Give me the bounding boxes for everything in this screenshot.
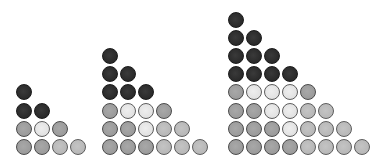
circle-very-light <box>34 121 50 137</box>
circle-staircase-figure <box>0 0 388 168</box>
circle-dark <box>120 84 136 100</box>
circle-dark <box>228 48 244 64</box>
circle-medium-gray <box>264 121 280 137</box>
circle-dark <box>228 66 244 82</box>
circle-medium-gray <box>246 103 262 119</box>
circle-light-gray <box>336 139 352 155</box>
circle-light-gray <box>318 103 334 119</box>
circle-medium-gray <box>102 121 118 137</box>
circle-medium-gray <box>246 139 262 155</box>
circle-medium-gray <box>228 139 244 155</box>
circle-dark <box>228 30 244 46</box>
circle-light-gray <box>300 103 316 119</box>
circle-medium-gray <box>120 139 136 155</box>
circle-dark <box>16 84 32 100</box>
circle-dark <box>102 66 118 82</box>
circle-dark <box>264 48 280 64</box>
circle-medium-gray <box>16 121 32 137</box>
circle-medium-gray <box>120 121 136 137</box>
circle-very-light <box>264 84 280 100</box>
circle-dark <box>264 66 280 82</box>
circle-light-gray <box>52 139 68 155</box>
circle-very-light <box>120 103 136 119</box>
circle-medium-gray <box>228 121 244 137</box>
circle-medium-gray <box>34 139 50 155</box>
circle-light-gray <box>192 139 208 155</box>
circle-dark <box>120 66 136 82</box>
circle-dark <box>246 48 262 64</box>
circle-medium-gray <box>282 139 298 155</box>
circle-dark <box>16 103 32 119</box>
circle-medium-gray <box>16 139 32 155</box>
circle-medium-gray <box>228 103 244 119</box>
circle-dark <box>138 84 154 100</box>
circle-very-light <box>264 103 280 119</box>
circle-light-gray <box>174 139 190 155</box>
circle-very-light <box>282 103 298 119</box>
circle-medium-gray <box>156 103 172 119</box>
circle-medium-gray <box>228 84 244 100</box>
circle-medium-gray <box>102 103 118 119</box>
circle-light-gray <box>174 121 190 137</box>
circle-dark <box>246 30 262 46</box>
circle-very-light <box>282 121 298 137</box>
circle-very-light <box>138 103 154 119</box>
circle-light-gray <box>156 139 172 155</box>
circle-light-gray <box>336 121 352 137</box>
circle-dark <box>102 48 118 64</box>
circle-medium-gray <box>300 84 316 100</box>
circle-very-light <box>246 84 262 100</box>
circle-light-gray <box>156 121 172 137</box>
circle-light-gray <box>70 139 86 155</box>
circle-medium-gray <box>246 121 262 137</box>
circle-light-gray <box>318 139 334 155</box>
circle-dark <box>228 12 244 28</box>
circle-light-gray <box>318 121 334 137</box>
circle-medium-gray <box>102 139 118 155</box>
circle-dark <box>246 66 262 82</box>
circle-light-gray <box>300 121 316 137</box>
circle-dark <box>102 84 118 100</box>
circle-light-gray <box>300 139 316 155</box>
circle-medium-gray <box>52 121 68 137</box>
circle-dark <box>34 103 50 119</box>
circle-very-light <box>138 121 154 137</box>
circle-medium-gray <box>264 139 280 155</box>
circle-very-light <box>282 84 298 100</box>
circle-light-gray <box>354 139 370 155</box>
circle-medium-gray <box>138 139 154 155</box>
circle-dark <box>282 66 298 82</box>
